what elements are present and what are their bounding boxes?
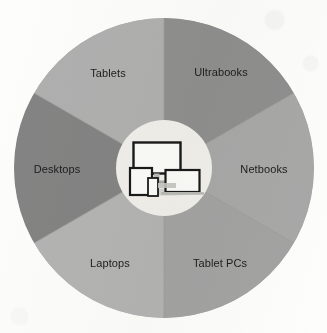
segment-label-ultrabooks: Ultrabooks	[194, 66, 248, 78]
segment-label-desktops: Desktops	[34, 163, 81, 175]
keyboard-hint	[158, 183, 176, 188]
segment-label-tablets: Tablets	[90, 67, 126, 79]
segment-label-tablet-pcs: Tablet PCs	[193, 257, 248, 269]
laptop-icon	[161, 170, 204, 195]
device-wheel-diagram: UltrabooksNetbooksTablet PCsLaptopsDeskt…	[0, 0, 327, 333]
figure-canvas: UltrabooksNetbooksTablet PCsLaptopsDeskt…	[0, 0, 327, 333]
segment-label-netbooks: Netbooks	[240, 163, 288, 175]
smartphone-icon	[148, 178, 158, 196]
segment-label-laptops: Laptops	[90, 257, 130, 269]
